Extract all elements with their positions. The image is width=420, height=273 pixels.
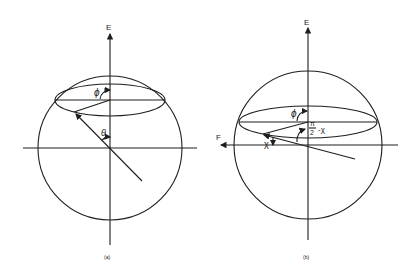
sphere-diagram: E ϕ θ (a) E F ϕ π 2 -χ χ (b): [0, 0, 420, 273]
radius-line-b: [263, 122, 308, 134]
chi-label-b: χ: [264, 139, 269, 149]
complement-rest-b: -χ: [318, 125, 326, 134]
phi-arc-b: [297, 111, 307, 121]
caption-b: (b): [303, 254, 309, 260]
e-label-a: E: [106, 23, 111, 32]
complement-arc-b: [297, 129, 305, 142]
theta-label-a: θ: [101, 128, 106, 138]
caption-a: (a): [104, 254, 110, 260]
phi-label-b: ϕ: [291, 108, 297, 119]
panel-b: E F ϕ π 2 -χ χ (b): [216, 18, 398, 260]
phi-arc-a: [100, 90, 110, 99]
panel-a: E ϕ θ (a): [23, 23, 197, 260]
f-label-b: F: [216, 133, 221, 142]
complement-num-b: π: [310, 120, 315, 127]
phi-label-a: ϕ: [94, 87, 100, 98]
radius-line-a: [74, 100, 110, 112]
e-label-b: E: [304, 18, 309, 27]
vector-b: [264, 135, 355, 159]
complement-den-b: 2: [310, 129, 314, 136]
